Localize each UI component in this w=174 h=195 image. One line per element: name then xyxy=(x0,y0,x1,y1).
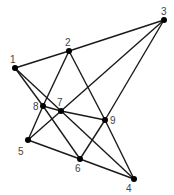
edge-2-3 xyxy=(69,20,164,51)
node-label-9: 9 xyxy=(110,115,116,126)
node-label-6: 6 xyxy=(75,163,81,174)
node-label-3: 3 xyxy=(161,6,167,17)
node-label-1: 1 xyxy=(10,54,16,65)
node-label-4: 4 xyxy=(126,183,132,194)
edge-9-3 xyxy=(105,20,164,120)
node-9 xyxy=(102,117,108,123)
node-7 xyxy=(58,108,64,114)
node-label-8: 8 xyxy=(33,101,39,112)
node-8 xyxy=(40,103,46,109)
node-6 xyxy=(77,156,83,162)
edge-2-8 xyxy=(43,51,69,106)
node-2 xyxy=(66,48,72,54)
node-label-7: 7 xyxy=(57,97,63,108)
node-4 xyxy=(131,176,137,182)
graph-labels: 123456789 xyxy=(10,6,167,194)
node-label-5: 5 xyxy=(18,146,24,157)
node-label-2: 2 xyxy=(65,37,71,48)
edge-2-9 xyxy=(69,51,105,120)
graph-diagram: 123456789 xyxy=(0,0,174,195)
edge-7-9 xyxy=(61,111,105,120)
graph-edges xyxy=(15,20,164,179)
node-5 xyxy=(25,137,31,143)
edge-1-2 xyxy=(15,51,69,68)
graph-nodes xyxy=(12,17,167,182)
node-3 xyxy=(161,17,167,23)
edge-6-9 xyxy=(80,120,105,159)
edge-1-8 xyxy=(15,68,43,106)
node-1 xyxy=(12,65,18,71)
edge-5-6 xyxy=(28,140,80,159)
